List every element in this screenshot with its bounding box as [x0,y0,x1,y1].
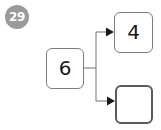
node-target-top-box[interactable]: 4 [114,12,153,53]
node-target-top-value: 4 [127,22,140,42]
diagram-canvas: 29 6 4 [0,0,161,130]
arrowhead-bottom-icon [107,97,115,106]
node-source-box[interactable]: 6 [46,48,84,89]
node-target-bottom-box[interactable] [115,85,153,124]
node-source-value: 6 [59,58,72,78]
arrowhead-top-icon [106,28,114,37]
